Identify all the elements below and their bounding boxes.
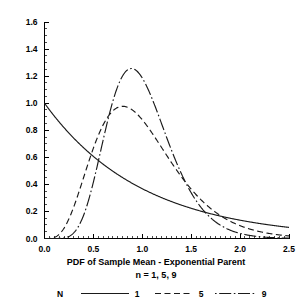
x-tick-label: 1.5 [185,244,197,254]
y-tick-label: 1.0 [26,98,38,108]
x-axis-sublabel: n = 1, 5, 9 [136,270,177,280]
y-tick-label: 0.0 [26,234,38,244]
y-tick-label: 0.2 [26,206,38,216]
pdf-line-chart: 0.00.20.40.60.81.01.21.41.6 0.00.51.01.5… [0,0,302,307]
legend-label-9: 9 [262,289,267,299]
legend-label-1: 1 [135,289,140,299]
legend-label-5: 5 [199,289,204,299]
x-tick-label: 2.5 [283,244,295,254]
y-tick-label: 0.6 [26,152,38,162]
x-tick-label: 2.0 [234,244,246,254]
y-tick-label: 1.2 [26,71,38,81]
y-tick-label: 1.4 [26,44,38,54]
legend-title: N [57,289,63,299]
x-axis-label: PDF of Sample Mean - Exponential Parent [67,257,246,267]
y-tick-label: 1.6 [26,17,38,27]
chart-figure: 0.00.20.40.60.81.01.21.41.6 0.00.51.01.5… [0,0,302,307]
x-tick-label: 1.0 [136,244,148,254]
y-tick-label: 0.8 [26,125,38,135]
y-axis-tick-labels: 0.00.20.40.60.81.01.21.41.6 [26,17,38,244]
x-tick-label: 0.0 [39,244,51,254]
x-tick-label: 0.5 [87,244,99,254]
y-tick-label: 0.4 [26,179,38,189]
